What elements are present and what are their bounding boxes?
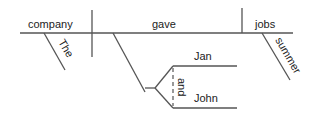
indirect-object-2-word: John xyxy=(194,92,218,104)
fork-lower xyxy=(155,88,173,108)
sentence-diagram: company The gave jobs summer and Jan Joh… xyxy=(0,0,313,116)
fork-upper xyxy=(155,66,173,88)
conjunction-word: and xyxy=(176,78,188,96)
subject-word: company xyxy=(28,18,73,30)
verb-word: gave xyxy=(152,18,176,30)
indirect-object-slant xyxy=(113,33,145,92)
subject-modifier-word: The xyxy=(56,37,76,59)
object-word: jobs xyxy=(254,18,276,30)
object-modifier-word: summer xyxy=(273,35,303,76)
indirect-object-1-word: Jan xyxy=(194,50,212,62)
